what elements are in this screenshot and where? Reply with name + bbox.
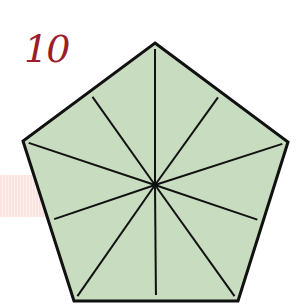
pentagon-figure xyxy=(0,0,305,306)
spoke-to-midpoint-2 xyxy=(155,185,156,295)
